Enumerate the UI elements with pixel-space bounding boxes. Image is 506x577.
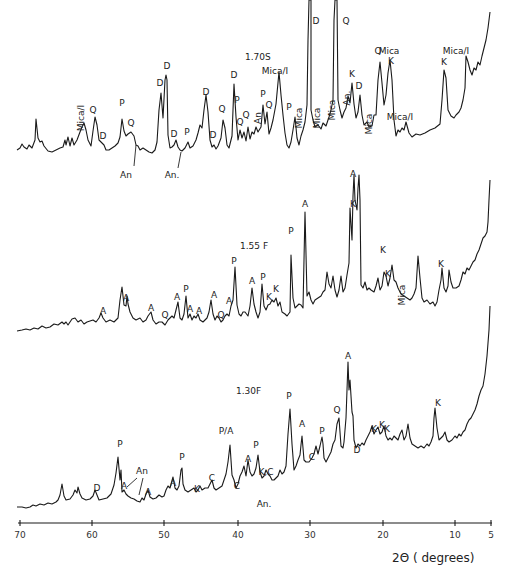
peak-label: Mica/I [76, 105, 86, 131]
peak-label: P [319, 426, 325, 436]
peak-label: C [209, 473, 215, 483]
peak-label: A [345, 351, 352, 361]
peak-label: A [196, 306, 203, 316]
peak-label: K [438, 259, 445, 269]
peak-label: Mica [379, 46, 400, 56]
peak-label: D [164, 61, 171, 71]
x-axis: 706050403020105 2Θ ( degrees) [14, 520, 494, 565]
peak-label: P [260, 272, 266, 282]
peak-label: P [234, 95, 240, 105]
peak-label: Q [342, 16, 349, 26]
x-axis-title: 2Θ ( degrees) [392, 551, 474, 565]
peak-label: Q [218, 104, 225, 114]
trace-1-70s [17, 0, 490, 153]
peak-label: D [210, 130, 217, 140]
leader-line [139, 478, 143, 495]
peak-label: P [286, 391, 292, 401]
x-tick-label: 5 [488, 530, 494, 540]
peak-label: P [119, 98, 125, 108]
peak-label: P [117, 439, 123, 449]
peak-label: P [288, 226, 294, 236]
x-tick-label: 10 [449, 530, 461, 540]
peak-label: P [231, 256, 237, 266]
x-tick-label: 70 [14, 530, 26, 540]
xrd-chart: 1.70S 1.55 F 1.30F Mica/IQDPQAnDDDPAn.DD… [0, 0, 506, 577]
leader-line [127, 478, 137, 487]
peak-label: P [253, 440, 259, 450]
peak-label: D [231, 70, 238, 80]
peak-label: Q [217, 310, 224, 320]
peak-label: A [145, 487, 152, 497]
peak-label: An [253, 112, 263, 124]
peak-label: A [100, 306, 107, 316]
peak-label: A [245, 454, 252, 464]
peak-label: K [380, 245, 387, 255]
peak-labels-middle: AAAQAPAAAQAPAPKKPAAKKKMicaK [100, 169, 445, 320]
peak-label: Mica [327, 100, 337, 121]
peak-label: K [349, 69, 356, 79]
peak-label: P [286, 102, 292, 112]
peak-label: Q [127, 118, 134, 128]
sample-label-bottom: 1.30F [236, 386, 261, 396]
peak-label: Mica/I [443, 46, 469, 56]
peak-label: D [203, 87, 210, 97]
peak-label: C [309, 452, 315, 462]
peak-label: K [273, 284, 280, 294]
peak-label: P [184, 127, 190, 137]
peak-label: A [211, 290, 218, 300]
peak-label: P [183, 284, 189, 294]
peak-label: A [121, 481, 128, 491]
peak-label: An. [257, 499, 272, 509]
peak-label: A [226, 296, 233, 306]
peak-label: An [136, 466, 148, 476]
x-tick-label: 50 [158, 530, 170, 540]
peak-label: Mica/I [262, 66, 288, 76]
peak-label: Mica [312, 108, 322, 129]
peak-label: A [170, 478, 177, 488]
peak-label: Q [89, 105, 96, 115]
peak-label: A [350, 169, 357, 179]
sample-label-middle: 1.55 F [240, 241, 268, 251]
leader-line [134, 145, 136, 166]
peak-label: Mica/I [387, 112, 413, 122]
peak-label: A [302, 199, 309, 209]
x-tick-label: 20 [377, 530, 389, 540]
trace-group [17, 0, 490, 508]
peak-label: D [157, 78, 164, 88]
peak-label: K [388, 56, 395, 66]
peak-label: A [174, 292, 181, 302]
peak-label: A [148, 303, 155, 313]
peak-label: Mica [397, 285, 407, 306]
peak-label: K [435, 398, 442, 408]
peak-label: K [441, 57, 448, 67]
peak-label: K,C [258, 467, 273, 477]
peak-label: An. [342, 91, 352, 106]
peak-label: A [123, 293, 130, 303]
peak-label: An [120, 170, 132, 180]
peak-label: D [356, 81, 363, 91]
peak-label: D [354, 445, 361, 455]
peak-label: A [187, 304, 194, 314]
peak-label: K [384, 424, 391, 434]
peak-labels-bottom: DPAAnAAPKCP/ACAPK,CAn.PACPQADKKKK [94, 351, 443, 509]
x-tick-label: 40 [232, 530, 244, 540]
peak-label: A [249, 276, 256, 286]
trace-1-55f [17, 175, 490, 331]
peak-label: D [313, 16, 320, 26]
peak-label: Q [333, 405, 340, 415]
peak-label: A [299, 419, 306, 429]
peak-label: Q [242, 110, 249, 120]
peak-label: D [171, 129, 178, 139]
x-tick-label: 60 [86, 530, 98, 540]
peak-label: Q [265, 100, 272, 110]
peak-label: Q [161, 310, 168, 320]
leader-line [178, 152, 181, 168]
peak-label: D [100, 131, 107, 141]
peak-label: C [234, 481, 240, 491]
peak-label: Mica [364, 114, 374, 135]
peak-label: P [179, 452, 185, 462]
peak-label: D [94, 483, 101, 493]
peak-label: Mica [294, 108, 304, 129]
sample-label-top: 1.70S [245, 52, 271, 62]
x-tick-label: 30 [304, 530, 316, 540]
